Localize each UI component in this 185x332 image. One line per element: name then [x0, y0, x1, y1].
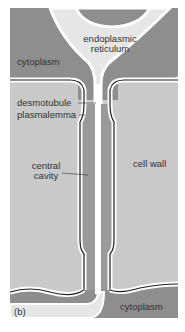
desmotubule	[95, 84, 101, 294]
label-endoplasmic-reticulum: endoplasmic reticulum	[70, 34, 150, 54]
label-cytoplasm-top: cytoplasm	[17, 57, 60, 67]
label-desmotubule: desmotubule	[17, 98, 71, 108]
label-cell-wall: cell wall	[133, 159, 166, 169]
central-label-line2: cavity	[26, 171, 66, 181]
panel-label: (b)	[14, 307, 26, 317]
er-label-line2: reticulum	[70, 44, 150, 54]
label-central-cavity: central cavity	[26, 161, 66, 181]
label-cytoplasm-bottom: cytoplasm	[120, 302, 163, 312]
label-plasmalemma: plasmalemma	[17, 110, 76, 120]
